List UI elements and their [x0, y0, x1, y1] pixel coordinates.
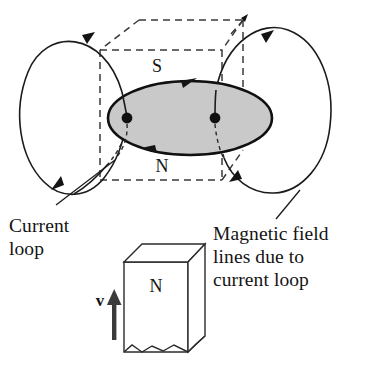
leader-line-field-lines: [276, 190, 300, 219]
magnet-pole-label: N: [150, 276, 163, 296]
current-node-icon: [210, 113, 221, 124]
caption-current-loop-line2: loop: [9, 238, 44, 259]
caption-field-lines-line1: Magnetic field: [213, 223, 329, 244]
magnetic-field-diagram: S N Current loop Magnetic field lines du…: [0, 0, 381, 372]
caption-field-lines-line3: current loop: [213, 269, 309, 290]
current-loop: [108, 78, 272, 155]
current-loop-disc: [108, 81, 272, 155]
cube-top-left-slant: [100, 20, 139, 50]
figure-root: S N Current loop Magnetic field lines du…: [0, 0, 381, 372]
up-arrow-icon-shaft: [112, 300, 116, 340]
up-arrow-icon-head: [107, 289, 122, 305]
arrowhead-icon: [261, 30, 274, 43]
current-node-icon: [122, 113, 133, 124]
caption-current-loop: Current loop: [9, 215, 70, 259]
caption-field-lines: Magnetic field lines due to current loop: [213, 223, 329, 290]
bar-magnet: N: [124, 244, 205, 352]
caption-current-loop-line1: Current: [9, 215, 70, 236]
leader-line-current-loop: [56, 160, 115, 205]
magnet-right-face: [188, 244, 205, 352]
axis-arrow-icon: [231, 14, 248, 34]
arrowhead-icon: [82, 32, 95, 44]
caption-field-lines-line2: lines due to: [213, 246, 304, 267]
velocity-label: v: [96, 291, 105, 310]
arrowhead-icon: [51, 176, 64, 190]
south-pole-label: S: [152, 56, 162, 76]
velocity-vector: v: [96, 289, 122, 340]
north-pole-label: N: [156, 156, 169, 176]
